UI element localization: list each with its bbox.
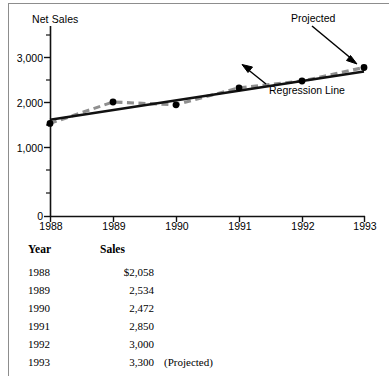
cell-sales: 3,000 (100, 338, 164, 356)
projected-arrow-line (312, 26, 353, 60)
cell-sales: 2,472 (100, 302, 164, 320)
net-sales-figure: Net Sales 3,000 2,000 1,000 0 1988 1989 … (0, 0, 389, 376)
cell-year: 1989 (28, 284, 100, 302)
table-header-note (164, 243, 213, 266)
table-header-row: Year Sales (28, 243, 213, 266)
cell-note (164, 266, 213, 284)
data-point-1992 (299, 78, 306, 85)
table-row: 1992 3,000 (28, 338, 213, 356)
sales-data-table: Year Sales 1988 $2,058 1989 2,534 1990 2… (28, 243, 213, 374)
table-row: 1989 2,534 (28, 284, 213, 302)
data-point-1989 (110, 99, 117, 106)
cell-note: (Projected) (164, 356, 213, 374)
cell-year: 1988 (28, 266, 100, 284)
cell-note (164, 302, 213, 320)
axis-lines (50, 26, 365, 217)
cell-sales: 3,300 (100, 356, 164, 374)
cell-sales-value: 2,850 (100, 320, 154, 332)
table-row: 1991 2,850 (28, 320, 213, 338)
cell-sales: 2,534 (100, 284, 164, 302)
data-point-1988 (47, 120, 54, 127)
cell-sales-value: $2,058 (100, 266, 154, 278)
table-row: 1990 2,472 (28, 302, 213, 320)
cell-sales-value: 3,000 (100, 338, 154, 350)
cell-year: 1992 (28, 338, 100, 356)
cell-note (164, 320, 213, 338)
regression-line (50, 72, 364, 120)
cell-year: 1990 (28, 302, 100, 320)
cell-sales: $2,058 (100, 266, 164, 284)
table-row: 1993 3,300 (Projected) (28, 356, 213, 374)
cell-year: 1993 (28, 356, 100, 374)
chart-plot (0, 0, 389, 240)
data-point-1990 (173, 101, 180, 108)
cell-sales-value: 2,472 (100, 302, 154, 314)
table-row: 1988 $2,058 (28, 266, 213, 284)
table-header-year: Year (28, 243, 100, 266)
cell-sales-value: 2,534 (100, 284, 154, 296)
cell-note (164, 284, 213, 302)
data-point-1991 (236, 84, 243, 91)
cell-note (164, 338, 213, 356)
data-point-1993 (361, 64, 368, 71)
cell-year: 1991 (28, 320, 100, 338)
cell-sales-value: 3,300 (100, 356, 154, 368)
chart-area: Net Sales 3,000 2,000 1,000 0 1988 1989 … (0, 0, 389, 240)
table-header-sales: Sales (100, 243, 164, 266)
cell-sales: 2,850 (100, 320, 164, 338)
